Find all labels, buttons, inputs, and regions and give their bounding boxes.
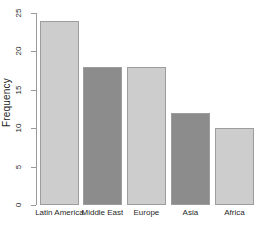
bar (127, 67, 166, 205)
y-axis-tick-label: 15 (8, 85, 30, 95)
y-axis-tick-label-text: 15 (14, 86, 24, 95)
bar-chart: Frequency 0510152025 Latin AmericaMiddle… (0, 0, 258, 232)
bar (83, 67, 122, 205)
y-axis-tick-label-text: 20 (14, 47, 24, 56)
y-axis-tick-label: 25 (8, 8, 30, 18)
y-axis-tick-label: 10 (8, 123, 30, 133)
bar (171, 113, 210, 205)
x-axis-tick-labels: Latin AmericaMiddle EastEuropeAsiaAfrica (37, 207, 256, 221)
y-axis-tick-mark (31, 205, 36, 206)
y-axis-tick-mark (31, 167, 36, 168)
x-axis-tick-label: Africa (184, 207, 258, 219)
y-axis-tick-mark (31, 51, 36, 52)
y-axis-tick-label-text: 5 (14, 165, 24, 169)
y-axis-title: Frequency (0, 0, 14, 205)
plot-area (37, 6, 256, 205)
bar (215, 128, 254, 205)
y-axis-tick-mark (31, 128, 36, 129)
y-axis-tick-label: 5 (8, 162, 30, 172)
y-axis-tick-label-text: 25 (14, 9, 24, 18)
bar (40, 21, 79, 205)
y-axis-tick-label: 20 (8, 46, 30, 56)
y-axis-tick-mark (31, 13, 36, 14)
y-axis-tick-label-text: 10 (14, 124, 24, 133)
y-axis-tick-mark (31, 90, 36, 91)
